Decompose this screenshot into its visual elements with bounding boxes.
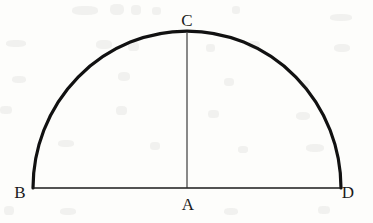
semicircle-diagram-svg — [0, 0, 373, 223]
vertex-label-D: D — [342, 184, 354, 201]
vertex-label-A: A — [182, 196, 194, 213]
geometry-figure: B C A D — [0, 0, 373, 223]
vertex-label-C: C — [181, 12, 192, 29]
vertex-label-B: B — [14, 184, 25, 201]
